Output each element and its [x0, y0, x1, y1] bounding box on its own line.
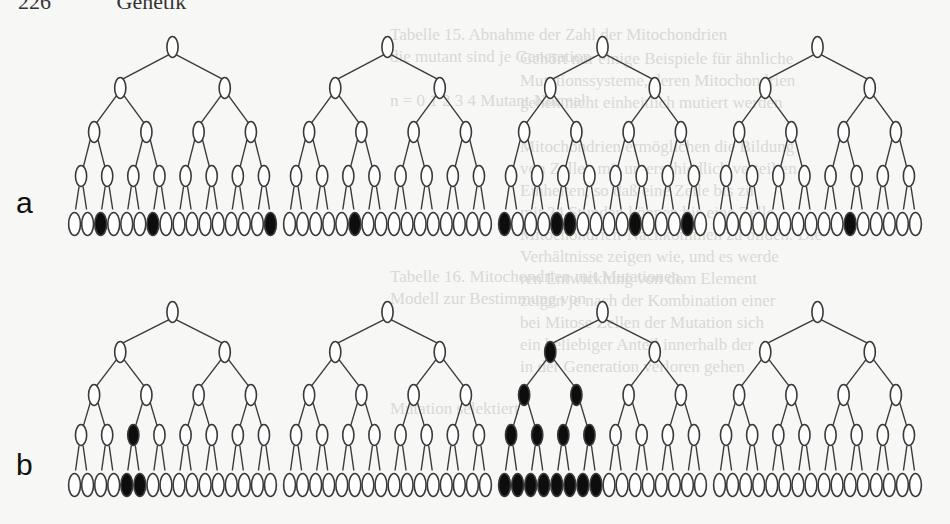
normal-cell-node — [603, 474, 615, 497]
normal-cell-node — [695, 474, 707, 497]
normal-cell-node — [251, 213, 263, 236]
tree-edge — [743, 403, 750, 426]
tree-edge — [631, 360, 651, 386]
tree-edge — [266, 446, 270, 471]
normal-cell-node — [154, 425, 165, 446]
tree-edge — [780, 187, 784, 210]
normal-cell-node — [831, 474, 843, 497]
tree-edge — [180, 187, 184, 210]
tree-edge — [532, 187, 536, 210]
tree-edge — [229, 360, 249, 386]
tree-edge — [580, 140, 587, 167]
tree-edge — [188, 187, 192, 210]
tree-edge — [532, 446, 536, 471]
normal-cell-node — [773, 425, 784, 446]
mutant-cell-node — [525, 474, 537, 497]
tree-nodes — [284, 37, 492, 236]
tree-edge — [403, 403, 410, 426]
normal-cell-node — [910, 213, 922, 236]
tree-edge — [528, 403, 535, 426]
normal-cell-node — [890, 122, 901, 143]
normal-cell-node — [225, 474, 237, 497]
normal-cell-node — [642, 474, 654, 497]
normal-cell-node — [382, 37, 393, 58]
tree-edge — [877, 187, 881, 210]
tree-edges — [76, 320, 270, 471]
tree-edge — [688, 446, 692, 471]
normal-cell-node — [180, 425, 191, 446]
normal-cell-node — [343, 166, 354, 187]
tree-edge — [721, 187, 725, 210]
tree-edge — [201, 96, 221, 123]
tree-edge — [481, 187, 485, 210]
tree-edge — [391, 55, 437, 79]
normal-cell-node — [75, 425, 86, 446]
tree-edge — [98, 140, 105, 167]
tree-edge — [470, 403, 477, 426]
normal-cell-node — [610, 425, 621, 446]
tree-edge — [255, 403, 262, 426]
normal-cell-node — [734, 385, 745, 406]
normal-cell-node — [747, 425, 758, 446]
normal-cell-node — [369, 425, 380, 446]
normal-cell-node — [160, 213, 172, 236]
tree-edge — [795, 403, 802, 426]
tree-edge — [395, 446, 399, 471]
normal-cell-node — [212, 213, 224, 236]
tree-edge — [688, 187, 692, 210]
tree-edge — [848, 403, 855, 426]
normal-cell-node — [219, 78, 230, 99]
normal-cell-node — [336, 213, 348, 236]
mutant-cell-node — [505, 425, 516, 446]
lineage-tree — [284, 302, 492, 497]
tree-edge — [781, 140, 788, 167]
normal-cell-node — [688, 166, 699, 187]
tree-edge — [135, 187, 139, 210]
normal-cell-node — [440, 213, 452, 236]
tree-edge — [636, 446, 640, 471]
normal-cell-node — [655, 213, 667, 236]
tree-edge — [324, 187, 328, 210]
tree-edge — [376, 187, 380, 210]
tree-edge — [685, 403, 692, 426]
normal-cell-node — [571, 122, 582, 143]
normal-cell-node — [317, 166, 328, 187]
tree-edge — [833, 446, 837, 471]
normal-cell-node — [714, 474, 726, 497]
normal-cell-node — [82, 213, 94, 236]
tree-edge — [662, 187, 666, 210]
tree-edge — [455, 403, 462, 426]
tree-edge — [741, 96, 761, 123]
tree-edge — [313, 403, 320, 426]
tree-nodes — [499, 302, 707, 497]
normal-cell-node — [395, 425, 406, 446]
normal-cell-node — [473, 425, 484, 446]
normal-cell-node — [649, 342, 660, 363]
normal-cell-node — [753, 213, 765, 236]
lineage-tree — [69, 37, 277, 236]
tree-edge — [109, 187, 113, 210]
tree-edge — [773, 446, 777, 471]
normal-cell-node — [265, 474, 277, 497]
normal-cell-node — [792, 474, 804, 497]
normal-cell-node — [623, 122, 634, 143]
normal-cell-node — [558, 166, 569, 187]
tree-edge — [885, 446, 889, 471]
normal-cell-node — [108, 474, 120, 497]
tree-edge — [631, 96, 651, 123]
tree-edge — [754, 446, 758, 471]
tree-edge — [255, 140, 262, 167]
normal-cell-node — [167, 302, 178, 323]
tree-edge — [825, 187, 829, 210]
normal-cell-node — [505, 166, 516, 187]
normal-cell-node — [395, 166, 406, 187]
normal-cell-node — [440, 474, 452, 497]
normal-cell-node — [818, 474, 830, 497]
tree-edge — [900, 140, 907, 167]
mutant-cell-node — [134, 474, 146, 497]
normal-cell-node — [799, 425, 810, 446]
tree-edge — [539, 187, 543, 210]
lineage-tree — [499, 302, 707, 497]
normal-cell-node — [766, 474, 778, 497]
tree-edge — [232, 446, 236, 471]
